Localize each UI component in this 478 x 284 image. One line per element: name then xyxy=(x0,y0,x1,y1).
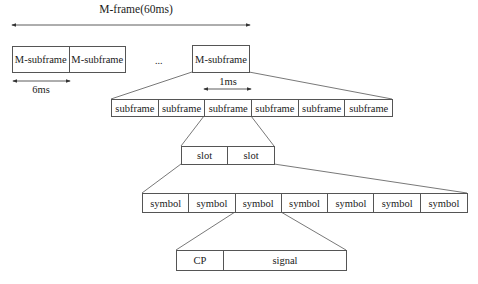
subframe-cell: subframe xyxy=(205,100,252,116)
subframe-cell: subframe xyxy=(345,100,392,116)
mframe-title: M-frame(60ms) xyxy=(99,4,172,16)
symbol-cell: symbol xyxy=(143,194,189,212)
symbol-cell: symbol xyxy=(328,194,374,212)
subframe-cell: subframe xyxy=(112,100,159,116)
symbol-cell: symbol xyxy=(189,194,235,212)
symbol-row: symbol symbol symbol symbol symbol symbo… xyxy=(142,193,468,213)
symbol-cell: symbol xyxy=(374,194,420,212)
msubframe-cell: M-subframe xyxy=(70,47,126,72)
subframe-row: subframe subframe subframe subframe subf… xyxy=(111,99,393,117)
symbol-detail-row: CP signal xyxy=(176,250,347,271)
subframe-cell: subframe xyxy=(159,100,206,116)
six-ms-label: 6ms xyxy=(32,85,50,96)
one-ms-label: 1ms xyxy=(219,77,237,88)
expanded-msubframe: M-subframe xyxy=(192,45,250,73)
ellipsis: ... xyxy=(155,55,163,66)
top-msubframe-row: M-subframe M-subframe xyxy=(12,46,126,73)
slot-cell: slot xyxy=(182,147,228,164)
subframe-cell: subframe xyxy=(299,100,346,116)
slot-cell: slot xyxy=(228,147,274,164)
symbol-cell: symbol xyxy=(236,194,282,212)
slot-row: slot slot xyxy=(181,146,275,165)
signal-cell: signal xyxy=(224,251,346,270)
connector-lines xyxy=(0,0,478,284)
symbol-cell: symbol xyxy=(282,194,328,212)
subframe-cell: subframe xyxy=(252,100,299,116)
symbol-cell: symbol xyxy=(421,194,467,212)
msubframe-cell: M-subframe xyxy=(193,46,249,72)
cp-cell: CP xyxy=(177,251,224,270)
msubframe-cell: M-subframe xyxy=(13,47,70,72)
